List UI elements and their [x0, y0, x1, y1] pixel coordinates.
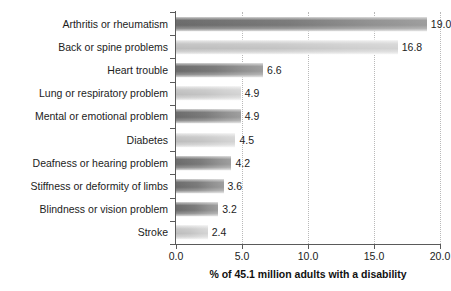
y-axis-tick [170, 151, 175, 152]
x-axis-tick-label: 0.0 [169, 250, 184, 262]
bar-row: 2.4 [176, 221, 440, 244]
bar-value-label: 16.8 [402, 41, 422, 53]
category-label: Deafness or hearing problem [33, 157, 168, 169]
bar-sheen [176, 132, 235, 147]
bar-value-label: 4.2 [235, 157, 250, 169]
bar [176, 109, 241, 124]
bar [176, 202, 218, 217]
y-axis-tick [170, 12, 175, 13]
category-label: Back or spine problems [58, 41, 168, 53]
category-label: Heart trouble [107, 64, 168, 76]
bar-value-label: 2.4 [212, 226, 227, 238]
y-axis-tick [170, 174, 175, 175]
x-axis-tick-label: 20.0 [430, 250, 450, 262]
bar-sheen [176, 86, 241, 101]
x-axis-tick [242, 245, 243, 249]
bar-chart: 19.016.86.64.94.94.54.23.63.22.4 Arthrit… [0, 0, 451, 291]
x-axis-tick [440, 245, 441, 249]
plot-area: 19.016.86.64.94.94.54.23.63.22.4 [176, 12, 440, 244]
bar-row: 4.2 [176, 151, 440, 174]
bar-sheen [176, 178, 224, 193]
bar [176, 132, 235, 147]
category-label: Blindness or vision problem [40, 203, 168, 215]
bar-sheen [176, 202, 218, 217]
bar-sheen [176, 16, 427, 31]
y-axis-tick [170, 35, 175, 36]
bar-sheen [176, 225, 208, 240]
category-label: Stroke [138, 226, 168, 238]
bar-row: 19.0 [176, 12, 440, 35]
x-axis-tick-label: 15.0 [364, 250, 384, 262]
bar-value-label: 19.0 [431, 18, 451, 30]
bar-sheen [176, 62, 263, 77]
x-axis-tick [176, 245, 177, 249]
bar-row: 3.2 [176, 198, 440, 221]
category-label: Diabetes [127, 134, 168, 146]
bar-row: 4.5 [176, 128, 440, 151]
category-label: Stiffness or deformity of limbs [30, 180, 168, 192]
bar-row: 6.6 [176, 58, 440, 81]
gridline [440, 12, 441, 244]
y-axis-line [175, 11, 176, 245]
bar-value-label: 4.9 [245, 87, 260, 99]
y-axis-tick [170, 221, 175, 222]
category-label: Arthritis or rheumatism [62, 18, 168, 30]
y-axis-tick [170, 128, 175, 129]
x-axis-tick [308, 245, 309, 249]
bar-value-label: 4.5 [239, 134, 254, 146]
bar-row: 4.9 [176, 105, 440, 128]
bar-row: 16.8 [176, 35, 440, 58]
x-axis-tick [374, 245, 375, 249]
bar-value-label: 3.6 [228, 180, 243, 192]
y-axis-tick [170, 244, 175, 245]
bar-row: 4.9 [176, 82, 440, 105]
y-axis-tick [170, 198, 175, 199]
bar [176, 16, 427, 31]
bar-value-label: 6.6 [267, 64, 282, 76]
bar-value-label: 4.9 [245, 110, 260, 122]
bar [176, 86, 241, 101]
bar-sheen [176, 155, 231, 170]
x-axis-title: % of 45.1 million adults with a disabili… [176, 268, 440, 280]
x-axis-tick-label: 5.0 [235, 250, 250, 262]
bar-sheen [176, 109, 241, 124]
bar [176, 178, 224, 193]
bar-value-label: 3.2 [222, 203, 237, 215]
x-axis-tick-label: 10.0 [298, 250, 318, 262]
category-label: Lung or respiratory problem [39, 87, 168, 99]
y-axis-tick [170, 82, 175, 83]
y-axis-tick [170, 105, 175, 106]
category-label: Mental or emotional problem [35, 110, 168, 122]
bar [176, 155, 231, 170]
bar [176, 39, 398, 54]
y-axis-tick [170, 58, 175, 59]
bar-row: 3.6 [176, 174, 440, 197]
bar-sheen [176, 39, 398, 54]
bar [176, 62, 263, 77]
bar [176, 225, 208, 240]
